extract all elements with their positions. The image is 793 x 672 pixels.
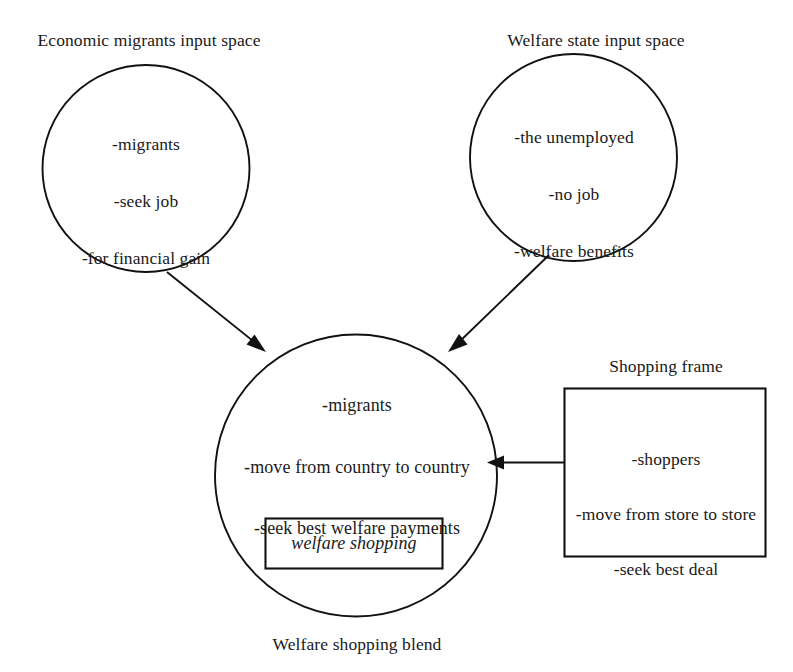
economic-item-3: -for financial gain <box>62 248 230 269</box>
shopping-frame-items: -shoppers -move from store to store -see… <box>568 428 764 600</box>
welfare-item-1: -the unemployed <box>478 127 670 148</box>
blend-item-1: -migrants <box>236 395 478 416</box>
welfare-state-space-label: Welfare state input space <box>455 30 737 51</box>
economic-item-2: -seek job <box>62 191 230 212</box>
economic-migrants-items: -migrants -seek job -for financial gain <box>62 113 230 289</box>
connector-frame-to-blend <box>487 456 564 470</box>
diagram-caption: Welfare shopping blend <box>216 634 498 655</box>
welfare-item-3: -welfare benefits <box>478 241 670 262</box>
economic-migrants-space-label: Economic migrants input space <box>8 30 290 51</box>
frame-item-3: -seek best deal <box>568 559 764 580</box>
frame-item-1: -shoppers <box>568 449 764 470</box>
welfare-item-2: -no job <box>478 184 670 205</box>
welfare-state-items: -the unemployed -no job -welfare benefit… <box>478 106 670 282</box>
blending-diagram: Economic migrants input space Welfare st… <box>0 0 793 672</box>
emergent-structure-label: welfare shopping <box>267 520 441 568</box>
economic-item-1: -migrants <box>62 134 230 155</box>
frame-item-2: -move from store to store <box>568 504 764 525</box>
shopping-frame-label: Shopping frame <box>570 356 762 377</box>
blend-item-2: -move from country to country <box>236 457 478 478</box>
